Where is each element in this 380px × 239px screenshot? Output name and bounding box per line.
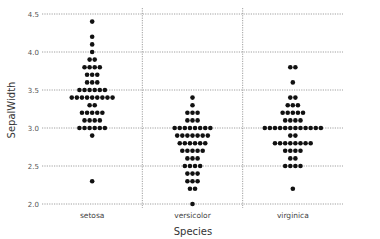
- data-point: [293, 164, 298, 169]
- data-point: [293, 156, 298, 161]
- data-point: [80, 111, 85, 116]
- data-point: [82, 126, 87, 131]
- data-point: [103, 126, 108, 131]
- data-point: [288, 118, 293, 123]
- data-point: [308, 126, 313, 131]
- data-point: [95, 73, 100, 78]
- data-point: [283, 118, 288, 123]
- data-point: [288, 65, 293, 70]
- data-point: [188, 164, 193, 169]
- data-point: [92, 126, 97, 131]
- data-point: [190, 118, 195, 123]
- data-point: [283, 126, 288, 131]
- data-points: [69, 19, 323, 206]
- data-point: [77, 126, 82, 131]
- x-axis-title: Species: [174, 226, 213, 237]
- data-point: [208, 126, 213, 131]
- data-point: [293, 126, 298, 131]
- data-point: [293, 141, 298, 146]
- data-point: [87, 126, 92, 131]
- data-point: [308, 141, 313, 146]
- data-point: [195, 118, 200, 123]
- data-point: [82, 118, 87, 123]
- y-tick-label: 4.0: [28, 49, 39, 57]
- data-point: [195, 111, 200, 116]
- data-point: [80, 95, 85, 100]
- data-point: [85, 111, 90, 116]
- data-point: [193, 164, 198, 169]
- data-point: [190, 111, 195, 116]
- data-point: [92, 57, 97, 62]
- data-point: [87, 103, 92, 108]
- data-point: [95, 111, 100, 116]
- data-point: [185, 149, 190, 154]
- data-point: [301, 111, 306, 116]
- data-point: [198, 141, 203, 146]
- data-point: [190, 202, 195, 207]
- data-point: [195, 179, 200, 184]
- data-point: [273, 141, 278, 146]
- data-point: [273, 126, 278, 131]
- x-category-label: virginica: [277, 211, 309, 220]
- data-point: [190, 149, 195, 154]
- data-point: [110, 95, 115, 100]
- data-point: [185, 171, 190, 176]
- data-point: [177, 126, 182, 131]
- data-point: [206, 133, 211, 138]
- data-point: [185, 118, 190, 123]
- data-point: [87, 65, 92, 70]
- data-point: [185, 111, 190, 116]
- data-point: [95, 80, 100, 85]
- data-point: [183, 164, 188, 169]
- data-point: [180, 149, 185, 154]
- data-point: [298, 126, 303, 131]
- data-point: [90, 80, 95, 85]
- data-point: [288, 164, 293, 169]
- data-point: [177, 141, 182, 146]
- data-point: [298, 118, 303, 123]
- data-point: [188, 126, 193, 131]
- data-point: [293, 95, 298, 100]
- data-point: [190, 156, 195, 161]
- data-point: [95, 95, 100, 100]
- data-point: [195, 171, 200, 176]
- data-point: [203, 126, 208, 131]
- data-point: [185, 156, 190, 161]
- data-point: [293, 133, 298, 138]
- data-point: [100, 95, 105, 100]
- y-tick-label: 2.5: [28, 163, 39, 171]
- data-point: [190, 179, 195, 184]
- swarm-plot: 2.02.53.03.54.04.5 setosaversicolorvirgi…: [0, 0, 380, 239]
- data-point: [278, 126, 283, 131]
- data-point: [92, 65, 97, 70]
- data-point: [195, 149, 200, 154]
- data-point: [183, 141, 188, 146]
- data-point: [283, 141, 288, 146]
- x-axis-categories: setosaversicolorvirginica: [80, 211, 309, 220]
- data-point: [288, 126, 293, 131]
- data-point: [185, 133, 190, 138]
- data-point: [198, 126, 203, 131]
- y-tick-label: 4.5: [28, 11, 39, 19]
- data-point: [77, 88, 82, 93]
- data-point: [268, 126, 273, 131]
- data-point: [285, 111, 290, 116]
- data-point: [195, 156, 200, 161]
- data-point: [69, 95, 74, 100]
- data-point: [293, 118, 298, 123]
- data-point: [85, 95, 90, 100]
- data-point: [180, 133, 185, 138]
- data-point: [90, 19, 95, 24]
- data-point: [92, 103, 97, 108]
- data-point: [87, 88, 92, 93]
- data-point: [288, 141, 293, 146]
- data-point: [90, 133, 95, 138]
- data-point: [291, 80, 296, 85]
- y-tick-label: 3.0: [28, 125, 39, 133]
- data-point: [195, 133, 200, 138]
- data-point: [188, 141, 193, 146]
- data-point: [319, 126, 324, 131]
- data-point: [190, 103, 195, 108]
- data-point: [296, 111, 301, 116]
- data-point: [193, 141, 198, 146]
